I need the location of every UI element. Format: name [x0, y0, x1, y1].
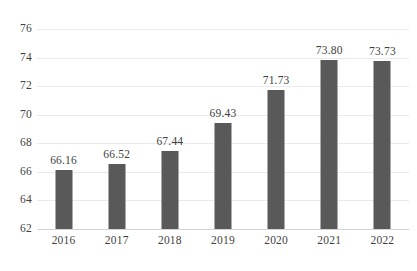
bar-value-label: 71.73	[263, 74, 290, 86]
x-axis-tick-label: 2022	[356, 234, 409, 246]
x-axis-line	[37, 229, 409, 230]
bar[interactable]	[374, 61, 391, 229]
bar[interactable]	[161, 151, 178, 229]
bar-group: 73.80	[303, 29, 356, 229]
x-axis-tick-label: 2016	[37, 234, 90, 246]
plot-area: 66.1666.5267.4469.4371.7373.8073.73	[37, 29, 409, 229]
bar-group: 69.43	[196, 29, 249, 229]
x-axis-tick-label: 2020	[250, 234, 303, 246]
y-axis-tick-label: 66	[2, 166, 32, 178]
bar-value-label: 69.43	[210, 107, 237, 119]
bar[interactable]	[55, 170, 72, 229]
y-axis-tick-label: 68	[2, 137, 32, 149]
y-axis-tick-label: 72	[2, 80, 32, 92]
bar-value-label: 66.16	[50, 154, 77, 166]
x-axis-tick-label: 2017	[90, 234, 143, 246]
bar-group: 66.16	[37, 29, 90, 229]
y-axis-tick-label: 70	[2, 109, 32, 121]
bar[interactable]	[321, 60, 338, 229]
bar-group: 71.73	[250, 29, 303, 229]
bar-chart: 66.1666.5267.4469.4371.7373.8073.73 6264…	[0, 0, 417, 271]
bar[interactable]	[268, 90, 285, 229]
bar[interactable]	[108, 164, 125, 229]
y-axis-tick-label: 64	[2, 194, 32, 206]
bar[interactable]	[214, 123, 231, 229]
y-axis-tick-label: 62	[2, 223, 32, 235]
x-axis-tick-label: 2018	[143, 234, 196, 246]
y-axis-tick-label: 74	[2, 52, 32, 64]
bar-value-label: 67.44	[156, 135, 183, 147]
bar-value-label: 73.80	[316, 44, 343, 56]
bar-group: 66.52	[90, 29, 143, 229]
bar-group: 73.73	[356, 29, 409, 229]
bar-group: 67.44	[143, 29, 196, 229]
x-axis-tick-label: 2021	[303, 234, 356, 246]
bar-value-label: 73.73	[369, 45, 396, 57]
bar-value-label: 66.52	[103, 148, 130, 160]
y-axis-tick-label: 76	[2, 23, 32, 35]
x-axis-tick-label: 2019	[196, 234, 249, 246]
